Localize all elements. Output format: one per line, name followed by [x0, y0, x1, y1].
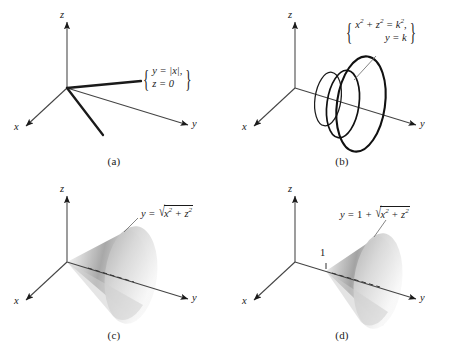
panel-d-graphic — [228, 174, 456, 348]
panel-c-graphic — [0, 174, 228, 348]
equation-line-1: y = |x|, — [152, 64, 182, 77]
panel-a-equation-label: { y = |x|, z = 0 } — [143, 64, 192, 90]
tick-label-one: 1 — [320, 247, 325, 258]
axis-label-x: x — [242, 295, 247, 306]
brace-open: { — [346, 17, 352, 43]
axis-label-y: y — [420, 118, 425, 129]
panel-a-graphic — [0, 0, 228, 174]
axis-label-y: y — [192, 118, 197, 129]
axis-label-y: y — [192, 292, 197, 303]
axis-label-x: x — [242, 121, 247, 132]
axis-x — [254, 88, 295, 126]
panel-b-graphic — [228, 0, 456, 174]
axis-label-z: z — [60, 183, 64, 194]
panel-caption-a: (a) — [0, 155, 228, 167]
equation-line-2: y = k — [355, 31, 406, 44]
panel-a: z x y { y = |x|, z = 0 } (a) — [0, 0, 228, 174]
axis-label-z: z — [60, 9, 64, 20]
panel-caption-b: (b) — [228, 155, 456, 167]
axis-x — [254, 262, 295, 300]
panel-b: z x y { x2 + z2 = k2, y = k } (b) — [228, 0, 456, 174]
panel-d: z x y 1 y = 1 + √x2 + z2 (d) — [228, 174, 456, 348]
axis-x — [26, 88, 67, 126]
graph-ray-right — [67, 81, 141, 88]
panel-d-equation-label: y = 1 + √x2 + z2 — [340, 206, 410, 221]
axis-label-x: x — [14, 295, 19, 306]
equation-line-1: x2 + z2 = k2, — [355, 17, 406, 31]
brace-close: } — [185, 64, 191, 90]
graph-ray-left — [67, 88, 103, 135]
panel-caption-c: (c) — [0, 329, 228, 341]
cross-section-circle-large — [331, 53, 392, 155]
panel-b-equation-label: { x2 + z2 = k2, y = k } — [346, 17, 416, 44]
panel-c-equation-label: y = √x2 + z2 — [141, 205, 193, 220]
panel-c: z x y y = √x2 + z2 (c) — [0, 174, 228, 348]
panel-caption-d: (d) — [228, 329, 456, 341]
axis-label-z: z — [288, 9, 292, 20]
axis-label-x: x — [14, 121, 19, 132]
brace-open: { — [143, 64, 149, 90]
axis-label-y: y — [420, 292, 425, 303]
brace-close: } — [410, 17, 416, 43]
axis-label-z: z — [288, 183, 292, 194]
axis-y — [67, 88, 188, 125]
equation-line-2: z = 0 — [152, 77, 182, 90]
figure-root: z x y { y = |x|, z = 0 } (a) z x y — [0, 0, 456, 348]
axis-x — [26, 262, 67, 300]
